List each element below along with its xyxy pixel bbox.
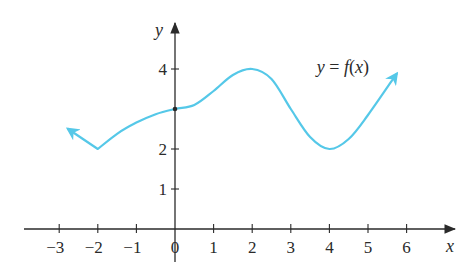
- y-tick-label: 1: [159, 180, 168, 199]
- x-tick-label: 6: [402, 238, 411, 257]
- y-axis-label: y: [153, 20, 163, 40]
- x-tick-label: 3: [287, 238, 296, 257]
- x-tick-label: 2: [248, 238, 257, 257]
- x-tick-label: 1: [209, 238, 218, 257]
- x-axis-label: x: [445, 236, 454, 256]
- x-tick-label: 4: [325, 238, 334, 257]
- function-graph: −3−2−10123456124 x y y = f(x): [0, 0, 473, 267]
- curve-f: [68, 69, 397, 149]
- x-tick-label: −1: [123, 238, 141, 257]
- tick-labels: −3−2−10123456124: [46, 60, 411, 257]
- y-intercept-dot: [173, 107, 178, 112]
- y-tick-label: 2: [159, 140, 168, 159]
- y-tick-label: 4: [159, 60, 168, 79]
- x-tick-label: −2: [85, 238, 103, 257]
- x-tick-label: 5: [364, 238, 373, 257]
- tick-marks: [59, 69, 406, 233]
- curve-label: y = f(x): [315, 57, 369, 78]
- plot-area: −3−2−10123456124 x y y = f(x): [0, 0, 473, 267]
- x-tick-label: −3: [46, 238, 64, 257]
- x-tick-label: 0: [171, 238, 180, 257]
